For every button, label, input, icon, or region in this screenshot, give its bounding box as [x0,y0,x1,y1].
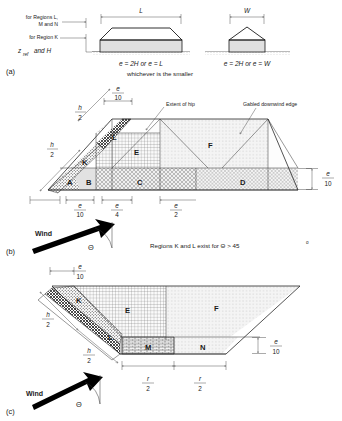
panel-c-bottom-dim-1-num: r [199,375,202,382]
panel-b-plan: A B C D E F K L [44,119,298,193]
panel-c-right-dim: e 10 [252,338,282,356]
panel-b-region-e: E [134,148,139,157]
panel-b-top-dim-den: 10 [114,94,122,101]
panel-b-right-dim-num: e [326,170,330,177]
panel-b-wind-arrow: Wind Θ [32,219,115,254]
panel-c-right-dim-den: 10 [272,348,280,355]
panel-c-bottom-dim-0-num: r [147,375,150,382]
panel-a-left-equation: e = 2H or e = L [119,60,163,67]
panel-c-top-dim-den: 10 [76,273,84,280]
panel-b-region-b: B [86,178,92,187]
panel-b-region-a: A [67,178,73,187]
panel-a-right-building: W e = 2H or e = W [205,7,290,67]
panel-c-label: (c) [6,407,15,416]
panel-a-right-equation: e = 2H or e = W [224,60,271,67]
panel-b-callout-gable: Gabled downwind edge [243,101,297,107]
panel-b-note-sup: o [306,240,309,245]
panel-c-diag-dim-1-den: 2 [87,357,91,364]
panel-b-diag-dim-0-den: 2 [78,114,82,121]
panel-c-diag-dim-1-num: h [87,347,91,354]
panel-b-bottom-dims: e 10 e 4 e 2 [30,196,196,218]
panel-c-diag-dim-0-num: h [46,311,50,318]
panel-a-annot-1: M and N [38,21,58,27]
panel-b-bottom-dim-0-den: 10 [76,211,84,218]
panel-a-label: (a) [6,67,15,76]
panel-b-region-f: F [208,141,213,150]
panel-b-right-dim-den: 10 [324,180,332,187]
panel-a-leaders [60,18,100,52]
panel-b-angle-symbol: Θ [88,243,94,252]
panel-c: e 10 [6,263,300,416]
panel-b-bottom-dim-0-num: e [78,202,82,209]
panel-c-plan: K L E F M N [38,286,300,360]
panel-b-bottom-dim-1-den: 4 [115,211,119,218]
panel-c-top-dim: e 10 [50,263,86,280]
panel-a-left-dim-label: L [139,7,143,14]
panel-a-zref-label: z [17,47,22,54]
panel-b-region-k: K [82,158,88,167]
panel-b-region-c: C [137,178,143,187]
panel-b-diag-dim-1-den: 2 [50,151,54,158]
panel-c-bottom-dims: r 2 r 2 [122,361,226,392]
panel-c-top-dim-num: e [78,263,82,270]
panel-c-diag-dim-0-den: 2 [46,321,50,328]
panel-b: e 10 [6,85,334,256]
panel-b-wind-label: Wind [35,230,52,237]
panel-b-right-dim: e 10 [298,169,334,190]
panel-b-bottom-dim-2-num: e [174,202,178,209]
panel-c-bottom-dim-1-den: 2 [198,385,202,392]
panel-a-annot-2: for Region K [29,34,58,40]
panel-b-region-d: D [240,178,246,187]
panel-c-region-f: F [214,304,219,313]
panel-b-callout-hip: Extent of hip [166,101,195,107]
panel-b-diag-dim-0-num: h [78,104,82,111]
panel-a-annot-0: for Regions L, [26,14,58,20]
panel-b-label: (b) [6,247,15,256]
panel-c-bottom-dim-0-den: 2 [146,385,150,392]
panel-c-region-m: M [145,343,151,352]
panel-c-region-l: L [108,333,113,342]
panel-c-wind-arrow: Wind Θ [26,372,103,410]
panel-c-region-k: K [76,296,82,305]
panel-b-top-dim: e 10 [104,85,132,105]
panel-b-bottom-dim-1-num: e [115,202,119,209]
panel-a-left-building: L e = 2H or e = L [92,7,190,67]
panel-b-region-l: L [112,133,117,142]
panel-c-region-e: E [125,306,130,315]
wind-zones-figure: for Regions L, M and N for Region K z re… [0,0,342,421]
panel-b-diag-dim-1-num: h [50,141,54,148]
panel-a-zref-sub: ref [23,52,29,57]
panel-b-note: Regions K and L exist for Θ > 45 [150,242,240,249]
panel-c-right-dim-num: e [274,338,278,345]
panel-c-wind-label: Wind [26,390,43,397]
panel-c-region-n: N [200,343,205,352]
panel-a-right-dim-label: W [244,7,251,14]
panel-b-top-dim-num: e [116,85,120,92]
panel-a-and-h-label: and H [34,47,51,54]
panel-c-angle-symbol: Θ [76,400,82,409]
panel-a-footer-note: whichever is the smaller [126,70,193,77]
panel-a: for Regions L, M and N for Region K z re… [6,7,290,77]
panel-b-bottom-dim-2-den: 2 [174,211,178,218]
